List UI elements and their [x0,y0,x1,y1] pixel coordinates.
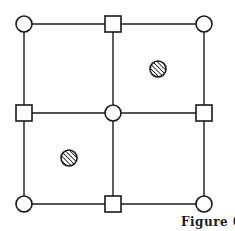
figure-caption: Figure 6 [181,215,235,229]
square-node-top-middle [105,16,121,32]
hatched-circle-top-right-cell [150,61,166,77]
square-node-middle-left [16,105,32,121]
circle-node-bottom-left [16,196,32,212]
lattice-diagram [0,0,235,231]
hatched-circle-bottom-left-cell [61,150,77,166]
circle-node-center [105,105,121,121]
square-node-bottom-middle [105,196,121,212]
node-markers [16,16,212,212]
square-node-middle-right [196,105,212,121]
circle-node-top-left [16,16,32,32]
circle-node-bottom-right [196,196,212,212]
circle-node-top-right [196,16,212,32]
